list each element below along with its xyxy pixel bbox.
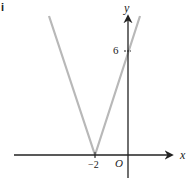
y-tick-label: 6 <box>113 45 119 56</box>
x-axis-label: x <box>180 149 185 161</box>
y-axis-label: y <box>124 2 129 14</box>
origin-label: O <box>115 158 123 169</box>
question-number: i <box>1 2 4 13</box>
x-tick-label: −2 <box>88 160 99 170</box>
graph-svg <box>0 0 193 181</box>
v-graph-line <box>49 16 140 155</box>
graph-figure: i y x O 6 −2 <box>0 0 193 181</box>
